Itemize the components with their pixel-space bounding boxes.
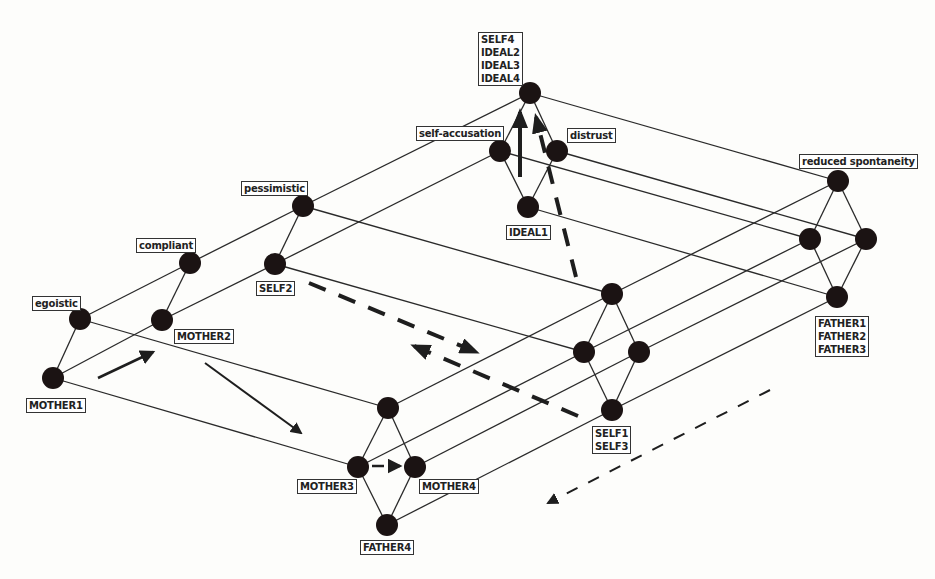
lattice-node-pessimistic (292, 195, 314, 217)
lattice-node-mother3 (347, 456, 369, 478)
node-label-mother4: MOTHER4 (419, 479, 479, 494)
concept-lattice-diagram: MOTHER1 egoistic MOTHER2 compliant SELF2… (0, 0, 935, 579)
lattice-node-distrust (546, 140, 568, 162)
node-label-mother2: MOTHER2 (174, 329, 234, 344)
lattice-node-m-left (573, 341, 595, 363)
node-label-distrust: distrust (567, 128, 616, 143)
lattice-node-self-accusation (489, 140, 511, 162)
node-label-self-accusation: self-accusation (416, 126, 504, 141)
dashed-arrow (548, 390, 770, 503)
lattice-node-father123 (826, 286, 848, 308)
dashed-arrow (309, 283, 476, 352)
lattice-node-mother4 (404, 456, 426, 478)
lattice-node-r-right (855, 228, 877, 250)
lattice-node-mother2 (151, 309, 173, 331)
lattice-node-father4 (376, 514, 398, 536)
node-label-father4: FATHER4 (360, 540, 414, 555)
lattice-edge (53, 378, 358, 467)
node-label-pessimistic: pessimistic (241, 181, 308, 196)
node-label-self2: SELF2 (256, 281, 295, 296)
node-label-ideal1: IDEAL1 (506, 225, 551, 240)
lattice-edge (275, 264, 584, 352)
node-label-father123: FATHER1 FATHER2 FATHER3 (815, 316, 869, 357)
lattice-node-r-left (799, 228, 821, 250)
node-label-mother1: MOTHER1 (26, 398, 86, 413)
node-label-reduced-spontaneity: reduced spontaneity (799, 154, 918, 169)
lattice-node-mother1 (42, 367, 64, 389)
lattice-node-compliant (179, 252, 201, 274)
lattice-edge (303, 206, 612, 294)
node-label-top: SELF4 IDEAL2 IDEAL3 IDEAL4 (478, 32, 523, 86)
dashed-arrow (414, 346, 578, 416)
lattice-node-ideal1 (517, 196, 539, 218)
edges-layer (53, 93, 866, 525)
lattice-edge (80, 263, 190, 319)
solid-arrow (98, 352, 153, 378)
lattice-node-m-right (628, 341, 650, 363)
node-label-egoistic: egoistic (32, 296, 81, 311)
arrows-layer (98, 112, 770, 503)
lattice-node-reduced-spontaneity (827, 170, 849, 192)
solid-arrow (205, 363, 301, 433)
lattice-edge (190, 206, 303, 263)
lattice-node-m-top (601, 283, 623, 305)
node-label-compliant: compliant (136, 238, 196, 253)
lattice-node-b-top (377, 397, 399, 419)
lattice-edge (53, 320, 162, 378)
node-label-self13: SELF1 SELF3 (592, 426, 631, 454)
lattice-node-egoistic (69, 308, 91, 330)
node-label-mother3: MOTHER3 (297, 479, 357, 494)
lattice-node-self2 (264, 253, 286, 275)
lattice-node-self13 (601, 399, 623, 421)
